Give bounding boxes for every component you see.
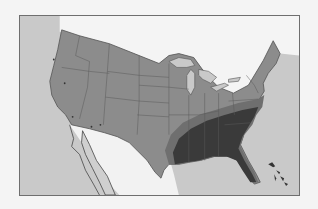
map-frame: [19, 15, 300, 196]
us-map: [20, 16, 299, 195]
